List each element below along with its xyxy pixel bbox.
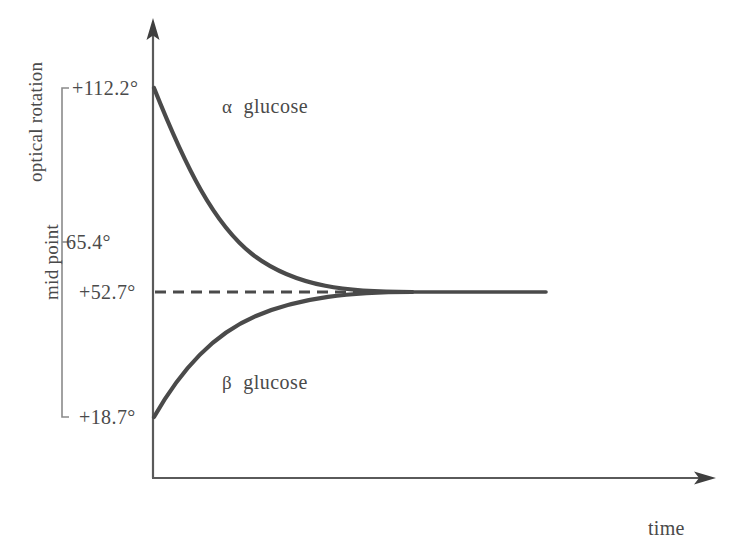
beta-symbol: β — [222, 372, 232, 393]
beta-glucose-curve — [154, 292, 412, 417]
axes-group — [147, 18, 717, 485]
beta-glucose-label: βglucose — [222, 372, 308, 392]
alpha-glucose-curve — [154, 88, 412, 292]
y-tick-label-bottom: +18.7° — [79, 407, 136, 427]
alpha-glucose-text: glucose — [243, 95, 308, 117]
alpha-symbol: α — [222, 96, 232, 117]
y-tick-label-top: +112.2° — [72, 78, 138, 98]
y-tick-label-equilibrium: +52.7° — [79, 282, 136, 302]
y-tick-label-midpoint: 65.4° — [66, 232, 111, 252]
x-axis-title: time — [648, 518, 685, 538]
mutarotation-chart: optical rotation mid point +112.2° 65.4°… — [0, 0, 745, 560]
midpoint-bracket-label: mid point — [42, 224, 61, 300]
alpha-glucose-label: αglucose — [222, 96, 308, 116]
y-axis-title: optical rotation — [26, 62, 45, 182]
beta-glucose-text: glucose — [243, 371, 308, 393]
